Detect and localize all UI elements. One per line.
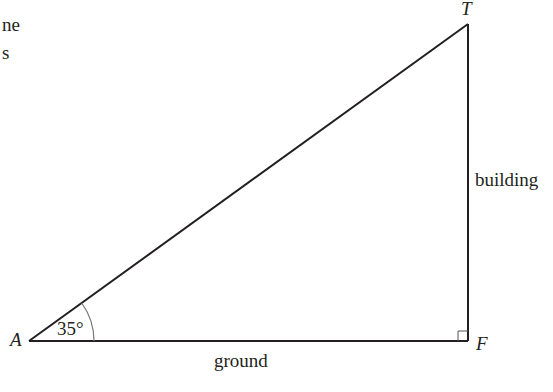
vertex-label-t: T	[461, 0, 473, 19]
triangle-diagram: A T F 35° building ground	[0, 0, 553, 392]
vertex-label-a: A	[8, 329, 22, 350]
side-hypotenuse	[29, 24, 468, 341]
right-angle-marker	[458, 331, 468, 341]
angle-label: 35°	[57, 318, 84, 339]
vertex-label-f: F	[475, 333, 488, 354]
side-label-building: building	[475, 169, 539, 190]
side-label-ground: ground	[214, 350, 268, 371]
